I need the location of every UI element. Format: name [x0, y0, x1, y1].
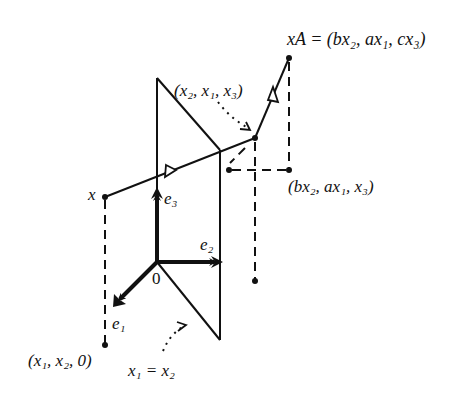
label-origin: 0: [152, 270, 161, 287]
label-xA: xA = (bx₂, ax₁, cx₃): [287, 30, 426, 48]
label-plane: x₁ = x₂: [128, 362, 175, 379]
transform-path: [105, 58, 289, 197]
projection-lines: [105, 62, 289, 343]
label-x: x: [88, 186, 96, 203]
label-base-point: (x₁, x₂, 0): [28, 352, 92, 369]
path-arrow-icon: [165, 165, 176, 177]
label-e3: e₃: [164, 190, 177, 207]
label-scaled-point: (bx₂, ax₁, x₃): [288, 178, 374, 195]
label-e1: e₁: [112, 315, 125, 332]
plane-x1-equals-x2: [157, 78, 220, 340]
label-reflection-point: (x₂, x₁, x₃): [174, 82, 243, 99]
label-e2: e₂: [200, 236, 213, 253]
reflection-diagram: [0, 0, 475, 403]
dotted-pointers: [163, 102, 248, 351]
